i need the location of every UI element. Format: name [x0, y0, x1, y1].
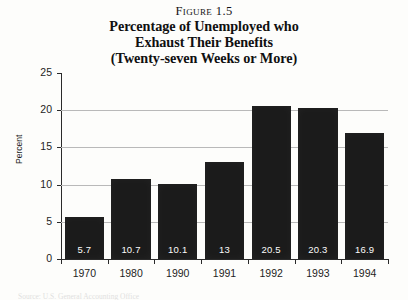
y-tick-label-25: 25 [28, 66, 52, 78]
bar[interactable]: 5.7 [65, 217, 104, 259]
y-tick-label-10: 10 [28, 178, 52, 190]
x-tick-mark [201, 259, 202, 264]
y-tick-label-0: 0 [28, 252, 52, 264]
y-tick-label-20: 20 [28, 103, 52, 115]
bar[interactable]: 10.7 [111, 179, 150, 259]
x-tick-label-1994: 1994 [353, 267, 376, 279]
chart-title-line-3: (Twenty-seven Weeks or More) [0, 51, 408, 67]
bar[interactable]: 10.1 [158, 184, 197, 259]
bar-value-label: 10.1 [158, 244, 197, 255]
bars-group: 5.710.710.11320.520.316.9 [61, 73, 388, 259]
x-tick-label-1980: 1980 [119, 267, 142, 279]
bar-value-label: 10.7 [111, 244, 150, 255]
bar[interactable]: 16.9 [345, 133, 384, 259]
x-tick-label-1991: 1991 [213, 267, 236, 279]
bar[interactable]: 20.3 [298, 108, 337, 259]
bar-value-label: 20.3 [298, 244, 337, 255]
bar-slot: 16.9 [341, 73, 388, 259]
bar-slot: 10.1 [154, 73, 201, 259]
bar-chart: Percent 0510152025 5.710.710.11320.520.3… [0, 68, 408, 280]
x-tick-mark [154, 259, 155, 264]
bar-slot: 20.3 [295, 73, 342, 259]
x-tick-mark [61, 259, 62, 264]
x-tick-label-1992: 1992 [260, 267, 283, 279]
bar-slot: 5.7 [61, 73, 108, 259]
x-tick-mark [341, 259, 342, 264]
x-tick-label-1970: 1970 [73, 267, 96, 279]
x-axis-line [61, 259, 389, 260]
x-tick-label-1990: 1990 [166, 267, 189, 279]
y-axis-title: Percent [14, 135, 24, 164]
bar-value-label: 13 [205, 244, 244, 255]
chart-title-line-1: Percentage of Unemployed who [0, 19, 408, 35]
y-tick-label-15: 15 [28, 140, 52, 152]
bar-slot: 13 [201, 73, 248, 259]
bar[interactable]: 20.5 [252, 106, 291, 259]
bar-value-label: 20.5 [252, 244, 291, 255]
x-tick-label-1993: 1993 [306, 267, 329, 279]
chart-title-block: Figure 1.5 Percentage of Unemployed who … [0, 4, 408, 67]
bar-slot: 20.5 [248, 73, 295, 259]
source-note: Source: U.S. General Accounting Office [18, 292, 390, 300]
x-tick-mark [295, 259, 296, 264]
x-tick-mark [388, 259, 389, 264]
y-tick-label-5: 5 [28, 215, 52, 227]
bar-slot: 10.7 [108, 73, 155, 259]
bar-value-label: 16.9 [345, 244, 384, 255]
chart-title-line-2: Exhaust Their Benefits [0, 35, 408, 51]
x-tick-mark [108, 259, 109, 264]
bar-value-label: 5.7 [65, 244, 104, 255]
x-tick-mark [248, 259, 249, 264]
bar[interactable]: 13 [205, 162, 244, 259]
figure-number-label: Figure 1.5 [0, 4, 408, 18]
